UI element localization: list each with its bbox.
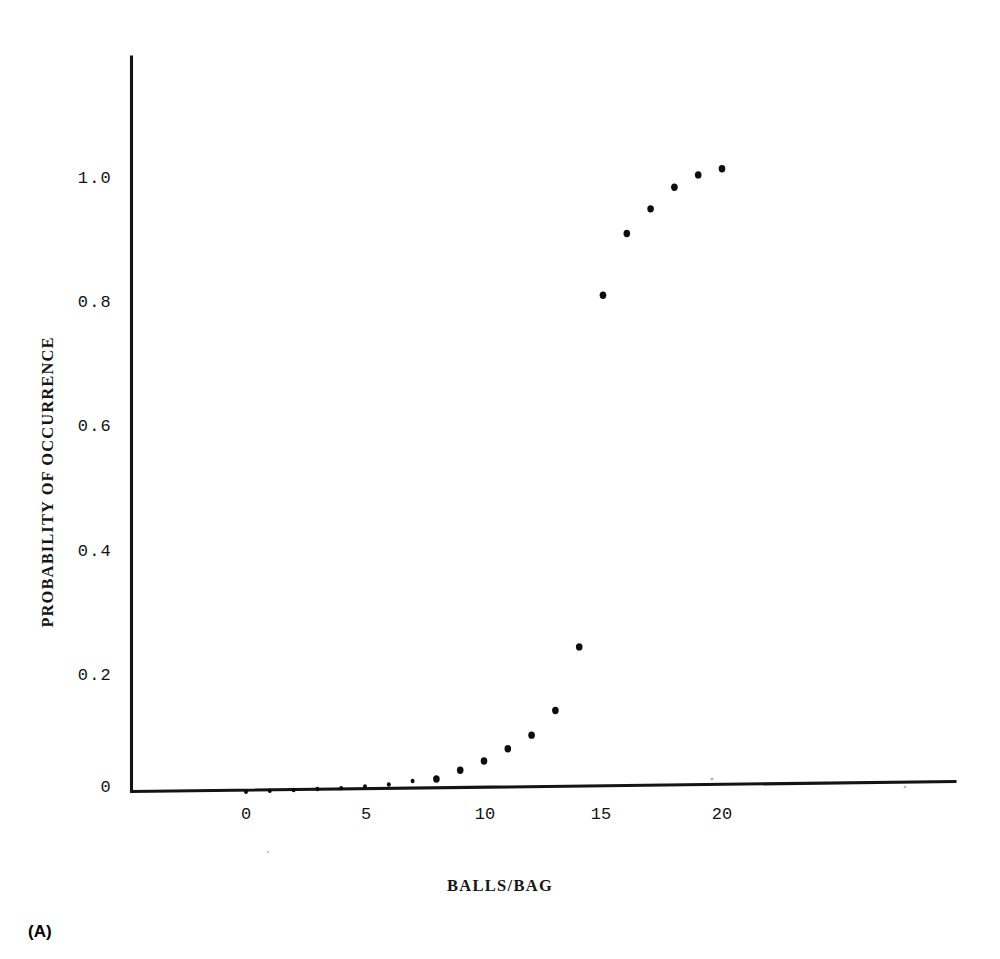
- data-point: [719, 165, 726, 172]
- data-point: [292, 788, 296, 792]
- data-point: [695, 171, 702, 178]
- data-point: [505, 745, 512, 752]
- data-point: [600, 292, 607, 299]
- axes-group: [132, 57, 956, 792]
- data-point: [433, 775, 440, 782]
- data-point: [315, 787, 319, 791]
- data-point: [481, 757, 488, 764]
- data-point: [387, 782, 391, 786]
- data-point: [457, 767, 464, 774]
- figure-panel: PROBABILITY OF OCCURRENCE 1.0 0.8 0.6 0.…: [0, 0, 1000, 959]
- data-point: [411, 779, 415, 783]
- scatter-plot-area: [0, 0, 1000, 959]
- data-point: [528, 731, 535, 738]
- data-point: [576, 643, 583, 650]
- data-point: [244, 790, 248, 794]
- data-point: [339, 786, 343, 790]
- data-point: [363, 784, 367, 788]
- axis-lines: [132, 57, 956, 792]
- data-point: [552, 707, 559, 714]
- data-point: [671, 184, 678, 191]
- data-points-group: [244, 165, 725, 794]
- data-point: [647, 205, 654, 212]
- data-point: [268, 789, 272, 793]
- data-point: [624, 230, 631, 237]
